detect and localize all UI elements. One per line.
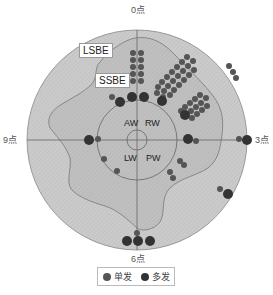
legend: 单发 多发 xyxy=(97,267,175,286)
clock-label-3: 3点 xyxy=(255,135,269,145)
clock-label-6: 6点 xyxy=(131,254,145,264)
legend-single-label: 单发 xyxy=(114,270,132,283)
quadrant-lw: LW xyxy=(124,153,137,163)
quadrant-rw: RW xyxy=(145,118,160,128)
clock-label-9: 9点 xyxy=(3,135,17,145)
ssbe-label: SSBE xyxy=(95,73,130,88)
multiple-dot-icon xyxy=(141,273,149,281)
single-dot-icon xyxy=(103,273,111,281)
quadrant-pw: PW xyxy=(146,153,161,163)
legend-item-multiple: 多发 xyxy=(141,270,170,283)
lsbe-label: LSBE xyxy=(79,43,113,58)
clock-label-0: 0点 xyxy=(131,5,145,15)
clock-diagram xyxy=(0,0,273,295)
legend-item-single: 单发 xyxy=(103,270,132,283)
legend-multiple-label: 多发 xyxy=(152,270,170,283)
quadrant-aw: AW xyxy=(124,118,138,128)
